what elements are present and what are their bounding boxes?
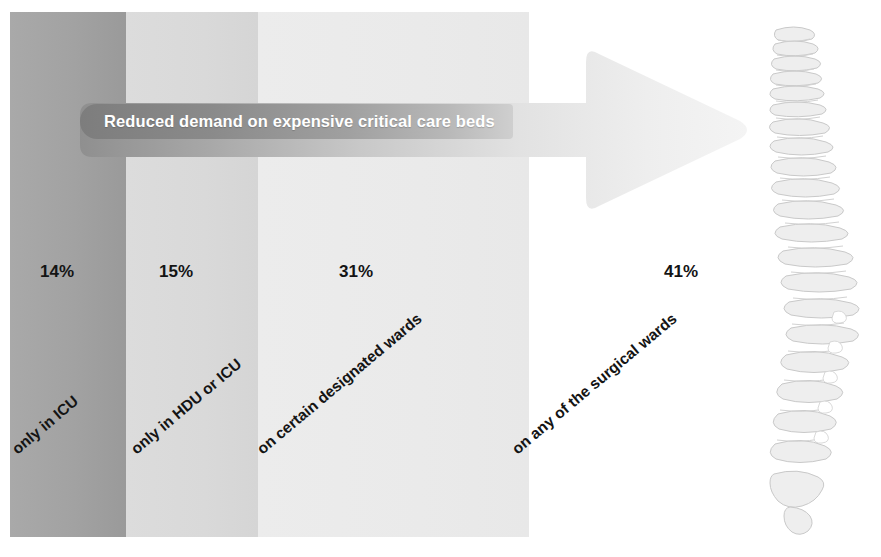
banner-label: Reduced demand on expensive critical car… bbox=[104, 112, 495, 131]
category-label-on-any-of-the-surgical-wards: on any of the surgical wards bbox=[508, 310, 680, 458]
figure-root: Reduced demand on expensive critical car… bbox=[0, 0, 881, 557]
value-label-on-any-of-the-surgical-wards: 41% bbox=[664, 262, 698, 282]
banner-reduced-demand: Reduced demand on expensive critical car… bbox=[80, 104, 513, 139]
band-on-certain-designated-wards bbox=[258, 12, 529, 537]
value-label-on-certain-designated-wards: 31% bbox=[339, 262, 373, 282]
value-label-only-in-icu: 14% bbox=[40, 262, 74, 282]
value-label-only-in-hdu-or-icu: 15% bbox=[159, 262, 193, 282]
spine-illustration bbox=[742, 18, 874, 538]
